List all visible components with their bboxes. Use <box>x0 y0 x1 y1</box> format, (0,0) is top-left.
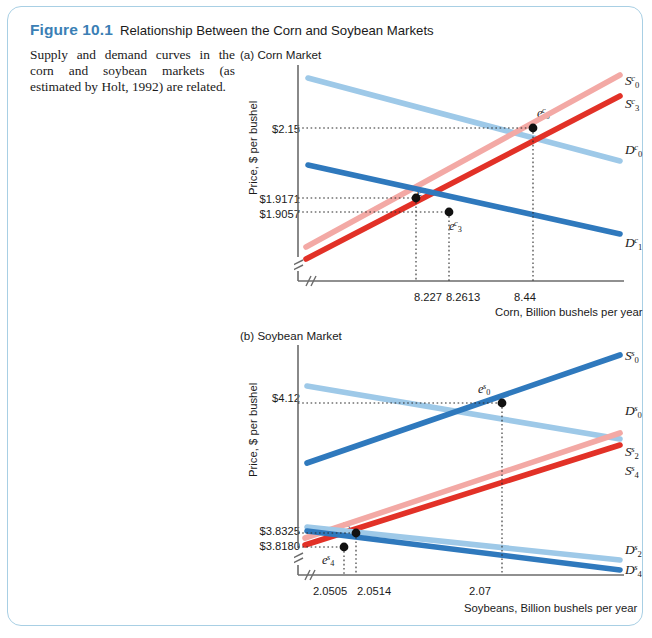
curve-label-d4s: Ds4 <box>625 562 642 579</box>
equilibrium-point-e4s <box>340 543 349 552</box>
panel-b-ytick-0: $4.12 <box>246 392 300 404</box>
panel-b-title: (b) Soybean Market <box>240 329 342 342</box>
panel-b-xtick-2: 2.07 <box>460 585 500 597</box>
curve-label-d0s: Ds0 <box>625 403 642 420</box>
figure-header: Figure 10.1Relationship Between the Corn… <box>30 21 630 43</box>
figure-title: Relationship Between the Corn and Soybea… <box>120 23 434 38</box>
panel-b-xtick-1: 2.0514 <box>350 585 398 597</box>
panel-a-x-axis-label: Corn, Billion bushels per year <box>495 306 643 318</box>
curve-label-d0c: Dc0 <box>625 142 642 159</box>
panel-a-y-axis-label: Price, $ per bushel <box>247 101 259 195</box>
curve-label-s4s: Ss4 <box>625 463 639 480</box>
figure-container: Figure 10.1Relationship Between the Corn… <box>7 6 643 626</box>
panel-b-plot <box>294 345 624 585</box>
equilibrium-point-e3c <box>445 208 454 217</box>
panel-a-plot <box>294 65 624 290</box>
panel-a-ytick-2: $1.9057 <box>246 208 300 220</box>
panel-a-xtick-1: 8.2613 <box>440 291 486 303</box>
figure-caption: Supply and demand curves in the corn and… <box>30 47 235 96</box>
curve-label-s3c: Sc3 <box>625 96 639 113</box>
equilibrium-point-e0s <box>498 399 507 408</box>
equilibrium-point-e0c <box>529 124 538 133</box>
equilibrium-point-e2s <box>352 529 361 538</box>
panel-a-y-axis-break-icon <box>294 260 303 270</box>
curve-label-d1c: Dc1 <box>625 235 642 252</box>
panel-b-x-axis-label: Soybeans, Billion bushels per year <box>464 602 637 614</box>
curve-d0s <box>307 386 620 439</box>
panel-a-ytick-0: $2.15 <box>246 123 300 135</box>
curve-label-s0s: Ss0 <box>625 348 639 365</box>
equilibrium-point-e1c <box>412 194 421 203</box>
panel-b-ytick-1: $3.8325 <box>240 525 300 537</box>
panel-b-ytick-2: $3.8180 <box>240 540 300 552</box>
panel-a-title: (a) Corn Market <box>240 48 321 61</box>
panel-a-xtick-2: 8.44 <box>505 291 545 303</box>
figure-number: Figure 10.1 <box>30 21 113 38</box>
panel-b-y-axis-break-icon <box>294 553 303 563</box>
curve-label-s2s: Ss2 <box>625 444 639 461</box>
curve-label-s0c: Sc0 <box>625 73 639 90</box>
panel-b-xtick-0: 2.0505 <box>306 585 354 597</box>
panel-a-ytick-1: $1.9171 <box>246 193 300 205</box>
curve-label-d2s: Ds2 <box>625 542 642 559</box>
